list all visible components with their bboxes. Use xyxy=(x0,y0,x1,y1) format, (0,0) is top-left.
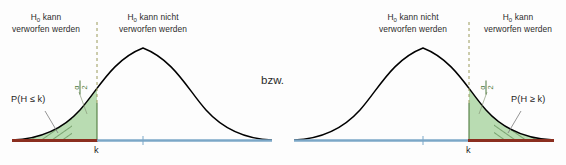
left-critical-value-label: k xyxy=(94,145,99,155)
left-alpha-denominator: 2 xyxy=(81,81,88,95)
left-alpha-label: α 2 xyxy=(73,81,88,95)
right-reject-region-label: H0 kann verworfen werden xyxy=(474,12,562,34)
right-probability-label: P(H ≥ k) xyxy=(511,94,545,104)
left-chart-panel: H0 kann verworfen werden H0 kann nicht v… xyxy=(0,0,283,165)
right-probability-leader-line xyxy=(508,111,521,133)
right-accept-label-line2: verworfen werden xyxy=(379,24,447,34)
connector-label: bzw. xyxy=(261,74,284,86)
left-accept-label-line1: H0 kann nicht xyxy=(127,12,178,22)
left-reject-label-line2: verworfen werden xyxy=(12,24,80,34)
left-probability-label: P(H ≤ k) xyxy=(11,94,45,104)
right-chart-panel: H0 kann nicht verworfen werden H0 kann v… xyxy=(283,0,566,165)
right-reject-label-line2: verworfen werden xyxy=(484,24,552,34)
figure-canvas: H0 kann verworfen werden H0 kann nicht v… xyxy=(0,0,566,165)
left-reject-region-label: H0 kann verworfen werden xyxy=(2,12,90,34)
left-accept-region-label: H0 kann nicht verworfen werden xyxy=(101,12,205,34)
right-critical-value-label: k xyxy=(466,145,471,155)
left-density-curve xyxy=(12,48,272,140)
right-accept-region-label: H0 kann nicht verworfen werden xyxy=(361,12,465,34)
right-accept-label-line1: H0 kann nicht xyxy=(387,12,438,22)
left-tail-region xyxy=(12,48,272,140)
right-alpha-denominator: 2 xyxy=(487,81,494,95)
left-alpha-region xyxy=(12,48,272,140)
right-reject-label-line1: H0 kann xyxy=(503,12,534,22)
right-alpha-label: α 2 xyxy=(479,81,494,95)
left-probability-leader-line xyxy=(45,111,58,133)
left-accept-label-line2: verworfen werden xyxy=(119,24,187,34)
left-reject-label-line1: H0 kann xyxy=(31,12,62,22)
